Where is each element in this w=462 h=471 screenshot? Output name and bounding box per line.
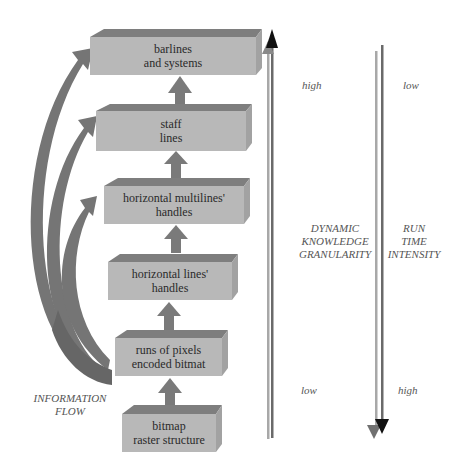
up-arrow-5 <box>158 378 182 407</box>
knowledge-top-label: high <box>302 79 322 91</box>
knowledge-granularity-axis <box>262 29 278 439</box>
box-horizontal-multilines <box>104 178 250 224</box>
box-runs-of-pixels <box>115 330 228 376</box>
level-boxes <box>90 29 262 452</box>
runtime-bottom-label: high <box>398 384 418 396</box>
arrowhead-up-dark <box>266 29 278 48</box>
knowledge-bottom-label: low <box>301 384 317 396</box>
up-arrow-2 <box>164 151 188 178</box>
box-bitmap <box>122 405 222 452</box>
box-staff-lines <box>96 104 252 151</box>
up-arrow-3 <box>164 225 188 253</box>
box-barlines <box>90 29 262 75</box>
runtime-axis-title: RUN TIME INTENSITY <box>384 222 444 261</box>
information-flow-arrows <box>31 48 112 385</box>
up-arrow-1 <box>168 76 192 107</box>
runtime-top-label: low <box>403 79 419 91</box>
up-arrow-4 <box>157 302 181 330</box>
knowledge-axis-title: DYNAMIC KNOWLEDGE GRANULARITY <box>290 222 380 261</box>
box-horizontal-lines <box>108 254 238 300</box>
information-flow-label: INFORMATION FLOW <box>25 392 115 418</box>
